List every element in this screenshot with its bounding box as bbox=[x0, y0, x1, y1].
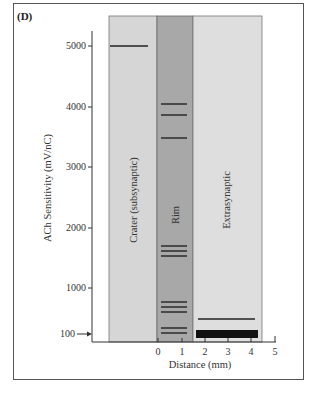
y-axis-label: ACh Sensitivity (mV/nC) bbox=[42, 134, 54, 242]
y-tick-1000: 1000 bbox=[66, 282, 86, 293]
x-axis-label: Distance (mm) bbox=[169, 359, 232, 371]
y-tick-2000: 2000 bbox=[66, 222, 86, 233]
region-label-rim: Rim bbox=[170, 206, 181, 224]
y-tick-5000: 5000 bbox=[66, 40, 86, 51]
region-label-extrasynaptic: Extrasynaptic bbox=[221, 171, 232, 229]
x-tick-labels: 0 1 2 3 4 5 bbox=[156, 346, 278, 357]
x-tick-5: 5 bbox=[273, 346, 278, 357]
x-tick-0: 0 bbox=[156, 346, 161, 357]
region-label-crater: Crater (subsynaptic) bbox=[128, 157, 140, 243]
x-tick-4: 4 bbox=[249, 346, 254, 357]
x-tick-2: 2 bbox=[203, 346, 208, 357]
y-tick-labels: 5000 4000 3000 2000 1000 100 bbox=[60, 40, 86, 339]
y-tick-3000: 3000 bbox=[66, 161, 86, 172]
x-tick-3: 3 bbox=[226, 346, 231, 357]
extrasynaptic-dense-band bbox=[196, 330, 258, 338]
y-tick-100: 100 bbox=[60, 328, 75, 339]
y-tick-4000: 4000 bbox=[66, 101, 86, 112]
chart: 5000 4000 3000 2000 1000 100 0 1 2 3 4 5… bbox=[0, 0, 319, 395]
arrow-100-icon bbox=[77, 332, 92, 337]
y-ticks bbox=[88, 46, 92, 288]
region-rim bbox=[157, 16, 193, 342]
x-tick-1: 1 bbox=[180, 346, 185, 357]
